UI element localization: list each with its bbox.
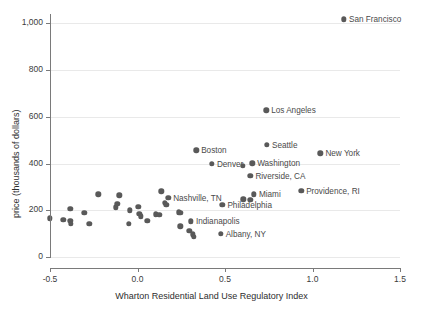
data-point-24 <box>95 191 100 196</box>
y-axis-spine <box>50 14 51 258</box>
y-tick-label-1: 200 <box>29 204 43 214</box>
y-tick-mark-4 <box>46 70 50 71</box>
y-tick-mark-5 <box>46 23 50 24</box>
data-point-38 <box>164 202 169 207</box>
y-tick-mark-3 <box>46 117 50 118</box>
y-tick-label-5: 1,000 <box>22 17 43 27</box>
gridline-y-0 <box>50 257 400 258</box>
point-label-new-york: New York <box>325 149 360 158</box>
x-tick-mark-1 <box>138 268 139 272</box>
y-tick-label-3: 600 <box>29 111 43 121</box>
x-tick-mark-4 <box>400 268 401 272</box>
point-label-san-francisco: San Francisco <box>349 15 401 24</box>
scatter-plot-figure: San FranciscoLos AngelesSeattleNew YorkB… <box>0 0 423 317</box>
point-label-indianapolis: Indianapolis <box>196 217 240 226</box>
point-label-miami: Miami <box>259 190 281 199</box>
data-point-26 <box>115 201 120 206</box>
data-point-new-york <box>318 151 323 156</box>
x-tick-mark-2 <box>225 268 226 272</box>
data-point-22 <box>81 210 86 215</box>
x-tick-label-4: 1.5 <box>394 274 406 284</box>
data-point-albany-ny <box>218 231 223 236</box>
data-point-riverside-ca <box>248 173 253 178</box>
point-label-nashville-tn: Nashville, TN <box>173 193 222 202</box>
data-point-san-francisco <box>341 16 346 21</box>
point-label-albany-ny: Albany, NY <box>226 229 266 238</box>
data-point-18 <box>60 217 65 222</box>
x-tick-mark-0 <box>50 268 51 272</box>
data-point-40 <box>178 210 183 215</box>
y-tick-mark-0 <box>46 257 50 258</box>
point-label-seattle: Seattle <box>272 140 298 149</box>
gridline-y-5 <box>50 23 400 24</box>
x-tick-mark-3 <box>313 268 314 272</box>
data-point-35 <box>157 212 162 217</box>
data-point-21 <box>68 221 73 226</box>
y-tick-mark-2 <box>46 164 50 165</box>
x-tick-label-3: 1.0 <box>307 274 319 284</box>
data-point-boston <box>193 148 198 153</box>
point-label-boston: Boston <box>201 146 227 155</box>
data-point-nashville-tn <box>165 195 170 200</box>
point-label-providence-ri: Providence, RI <box>306 186 360 195</box>
data-point-29 <box>126 221 131 226</box>
point-label-los-angeles: Los Angeles <box>271 106 316 115</box>
data-point-44 <box>191 234 196 239</box>
data-point-seattle <box>264 142 269 147</box>
gridline-y-1 <box>50 210 400 211</box>
data-point-philadelphia <box>220 202 225 207</box>
data-point-32 <box>138 213 143 218</box>
data-point-miami <box>251 192 256 197</box>
x-tick-label-2: 0.5 <box>219 274 231 284</box>
x-tick-label-1: 0.0 <box>132 274 144 284</box>
data-point-indianapolis <box>188 219 193 224</box>
data-point-14 <box>240 163 245 168</box>
data-point-41 <box>178 224 183 229</box>
y-tick-label-2: 400 <box>29 158 43 168</box>
y-axis-title: price (thousands of dollars) <box>11 109 21 218</box>
data-point-23 <box>87 221 92 226</box>
data-point-denver <box>209 161 214 166</box>
data-point-providence-ri <box>298 188 303 193</box>
data-point-36 <box>158 189 163 194</box>
gridline-y-3 <box>50 117 400 118</box>
y-tick-label-0: 0 <box>38 251 43 261</box>
data-point-washington <box>249 161 254 166</box>
data-point-30 <box>136 204 141 209</box>
gridline-y-4 <box>50 70 400 71</box>
data-point-los-angeles <box>263 108 268 113</box>
data-point-28 <box>127 208 132 213</box>
y-tick-label-4: 800 <box>29 64 43 74</box>
data-point-27 <box>116 193 121 198</box>
x-tick-label-0: -0.5 <box>43 274 58 284</box>
y-tick-mark-1 <box>46 210 50 211</box>
point-label-washington: Washington <box>257 159 300 168</box>
data-point-33 <box>144 218 149 223</box>
x-axis-title: Wharton Residential Land Use Regulatory … <box>0 291 423 301</box>
point-label-riverside-ca: Riverside, CA <box>255 171 305 180</box>
plot-area: San FranciscoLos AngelesSeattleNew YorkB… <box>50 14 400 257</box>
